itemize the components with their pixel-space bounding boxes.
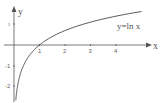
y-tick-label: -2 [5,83,11,89]
x-ticks: 1 2 3 4 [38,44,118,54]
x-tick-label: 1 [38,48,42,54]
ln-chart: x y 1 2 3 4 1 -1 -2 y=ln x [0,0,160,103]
x-axis-label: x [153,40,158,51]
y-tick-label: 1 [8,22,11,27]
x-tick-label: 3 [89,48,93,54]
x-tick-label: 2 [63,48,67,54]
x-axis-arrow-icon [146,43,152,48]
x-tick-label: 4 [114,48,118,54]
y-tick-label: -1 [5,63,11,69]
y-ticks: 1 -1 -2 [5,22,15,89]
y-axis-label: y [18,6,23,17]
y-axis-arrow-icon [12,6,17,12]
function-label: y=ln x [117,21,141,31]
